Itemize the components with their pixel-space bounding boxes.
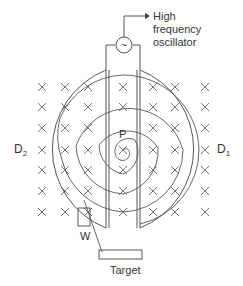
dee-d2-label: D2 xyxy=(14,142,28,158)
oscillator-wire-right xyxy=(133,45,140,70)
cyclotron-diagram: ~ High frequency oscillator D2 D1 P W Ta… xyxy=(0,0,243,286)
oscillator-label-2: frequency xyxy=(153,23,202,35)
particle-spiral-path xyxy=(58,75,199,224)
target-block xyxy=(99,250,142,259)
dee-d2 xyxy=(52,70,106,228)
oscillator-tilde: ~ xyxy=(121,39,127,51)
oscillator-label-3: oscillator xyxy=(153,36,197,48)
dee-d1-label: D1 xyxy=(217,142,231,158)
oscillator-label-1: High xyxy=(153,10,176,22)
oscillator-wire-left xyxy=(106,45,115,70)
oscillator-output-line xyxy=(124,16,145,37)
dee-d1 xyxy=(140,70,194,228)
source-p-label: P xyxy=(119,128,126,140)
window-w-label: W xyxy=(80,230,91,242)
arrow-icon xyxy=(145,13,150,19)
target-label: Target xyxy=(110,264,141,276)
window-w xyxy=(78,208,90,226)
